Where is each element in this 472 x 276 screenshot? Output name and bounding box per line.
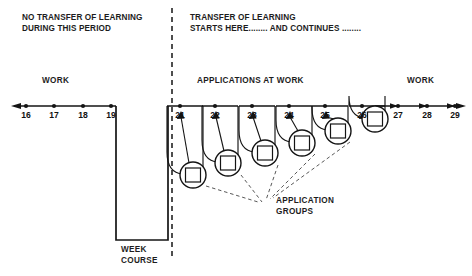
week-label: 25 [320, 110, 330, 120]
application-group [202, 106, 241, 176]
week-label: 22 [210, 110, 220, 120]
week-label: 29 [450, 110, 460, 120]
week-labels-layer: 16171819212223242526272829 [21, 110, 460, 120]
application-group-square [186, 168, 201, 182]
label-work-right: WORK [407, 76, 434, 85]
label-work-left: WORK [42, 76, 69, 85]
header-left-line2: DURING THIS PERIOD [22, 24, 111, 33]
week-tick [323, 104, 327, 108]
axis-right-arrow-icon [456, 103, 466, 109]
transfer-of-learning-diagram: NO TRANSFER OF LEARNING DURING THIS PERI… [0, 0, 472, 276]
axis-left-arrow-icon [11, 103, 21, 109]
week-course-box [116, 106, 168, 240]
application-group [239, 106, 278, 166]
application-group-square [331, 124, 346, 138]
label-applications-at-work: APPLICATIONS AT WORK [197, 76, 304, 85]
week-tick [109, 104, 113, 108]
application-groups-layer [167, 96, 388, 188]
week-label: 17 [49, 110, 59, 120]
week-label: 18 [78, 110, 88, 120]
week-tick [81, 104, 85, 108]
week-label: 23 [247, 110, 257, 120]
week-tick [287, 104, 291, 108]
application-group [349, 96, 388, 132]
header-left-line1: NO TRANSFER OF LEARNING [22, 13, 143, 22]
week-tick [425, 104, 429, 108]
application-group-square [368, 112, 383, 126]
header-right-line2: STARTS HERE........ AND CONTINUES ......… [190, 24, 361, 33]
week-tick [213, 104, 217, 108]
application-group-square [295, 136, 310, 150]
group-feedback-arrow-line [253, 117, 261, 141]
group-feedback-arrow-line [181, 117, 189, 163]
week-label: 28 [422, 110, 432, 120]
application-group [167, 106, 206, 188]
week-tick [24, 104, 28, 108]
week-tick [52, 104, 56, 108]
week-label: 24 [284, 110, 294, 120]
week-label: 26 [357, 110, 367, 120]
week-tick [250, 104, 254, 108]
week-tick [453, 104, 457, 108]
week-course-label-line2: COURSE [121, 256, 158, 265]
week-label: 16 [21, 110, 31, 120]
application-group [312, 106, 351, 144]
week-label: 21 [175, 110, 185, 120]
application-group-square [221, 156, 236, 170]
week-label: 27 [393, 110, 403, 120]
group-feedback-arrow-line [216, 117, 224, 151]
application-group [276, 106, 315, 156]
application-groups-label-line1: APPLICATION [276, 196, 334, 205]
header-right-line1: TRANSFER OF LEARNING [190, 13, 296, 22]
week-label: 19 [106, 110, 116, 120]
week-tick [360, 104, 364, 108]
application-group-square [258, 146, 273, 160]
week-tick [396, 104, 400, 108]
week-tick [178, 104, 182, 108]
week-course-label-line1: WEEK [121, 245, 147, 254]
application-groups-label-line2: GROUPS [276, 207, 314, 216]
